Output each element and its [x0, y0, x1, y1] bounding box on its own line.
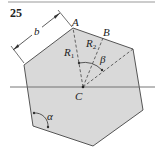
arrowhead-icon: [78, 62, 80, 64]
arrowhead-icon: [13, 44, 19, 50]
label-b: b: [34, 25, 40, 37]
extension-line-left: [11, 46, 24, 63]
label-alpha: α: [47, 110, 53, 122]
arrowhead-icon: [47, 126, 49, 128]
arrowhead-icon: [101, 69, 103, 71]
arrowhead-icon: [33, 112, 35, 114]
center-point-c: [82, 86, 85, 89]
label-beta: β: [99, 53, 106, 65]
label-c: C: [75, 90, 83, 102]
label-b-point: B: [103, 26, 110, 38]
diagram-canvas: 25 b A B C R1 R2 β α: [0, 0, 155, 156]
hexagon-diagram: 25 b A B C R1 R2 β α: [0, 0, 155, 156]
label-a: A: [71, 16, 79, 28]
figure-number: 25: [10, 6, 22, 20]
arrowhead-icon: [54, 13, 60, 19]
extension-line-right: [58, 10, 72, 27]
